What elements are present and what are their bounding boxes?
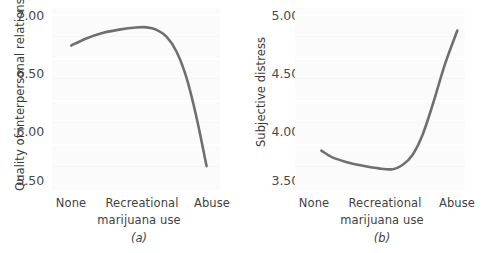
- x-axis-label-text: marijuana use: [97, 213, 180, 227]
- y-tick-label: 7.00: [17, 8, 44, 23]
- x-tick-label: None: [299, 196, 329, 210]
- x-tick-label: Abuse: [194, 196, 230, 210]
- data-curve-a: [52, 8, 220, 190]
- x-tick-labels-a: None Recreational Abuse: [46, 196, 232, 212]
- panel-caption-b: (b): [289, 231, 475, 245]
- panel-caption-a: (a): [46, 231, 232, 245]
- chart-panel-a: Quality of interpersonal relations 7.00 …: [0, 0, 241, 253]
- y-tick-label: 6.00: [17, 124, 44, 139]
- y-tick-label: 5.50: [17, 173, 44, 188]
- y-tick-label: 6.50: [17, 66, 44, 81]
- x-tick-labels-b: None Recreational Abuse: [289, 196, 475, 212]
- chart-panel-b: Subjective distress 5.00 4.50 4.00 3.50 …: [241, 0, 482, 253]
- x-axis-label-text: marijuana use: [340, 213, 423, 227]
- x-tick-label: Abuse: [439, 196, 475, 210]
- plot-area-a: [52, 8, 220, 190]
- x-axis-label-a: marijuana use: [46, 213, 232, 227]
- x-tick-label: None: [56, 196, 86, 210]
- plot-area-b: [295, 8, 465, 190]
- figure-two-panel-chart: Quality of interpersonal relations 7.00 …: [0, 0, 482, 253]
- data-curve-b: [295, 8, 465, 190]
- x-axis-label-b: marijuana use: [289, 213, 475, 227]
- x-tick-label: Recreational: [106, 196, 179, 210]
- x-tick-label: Recreational: [349, 196, 422, 210]
- y-tick-labels-a: 7.00 6.50 6.00 5.50: [0, 0, 48, 190]
